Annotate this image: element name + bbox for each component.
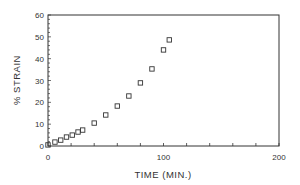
data-point-square [59,138,63,142]
y-tick-label: 20 [35,98,44,107]
y-axis-label: % STRAIN [11,55,22,105]
data-point-square [150,67,154,71]
y-tick-label: 40 [35,55,44,64]
data-point-square [70,133,74,137]
data-point-square [167,38,171,42]
data-point-square [92,121,96,125]
data-point-square [104,113,108,117]
x-tick-label: 0 [46,153,51,162]
y-tick-label: 50 [35,33,44,42]
axis-ticks [48,15,279,146]
strain-time-chart: 0100200 0102030405060 TIME (MIN.) % STRA… [0,0,300,185]
data-point-square [64,135,68,139]
data-point-square [138,81,142,85]
y-tick-labels: 0102030405060 [35,11,44,151]
x-tick-label: 100 [157,153,171,162]
x-tick-labels: 0100200 [46,153,286,162]
y-tick-label: 10 [35,120,44,129]
x-tick-label: 200 [272,153,286,162]
data-point-square [127,94,131,98]
y-tick-label: 30 [35,77,44,86]
x-axis-label: TIME (MIN.) [134,169,191,180]
plot-frame [48,15,279,146]
data-point-square [115,104,119,108]
plot-border [48,15,279,146]
data-point-square [53,140,57,144]
data-points [46,38,172,147]
data-point-square [161,48,165,52]
y-tick-label: 0 [40,142,45,151]
data-point-square [80,128,84,132]
y-tick-label: 60 [35,11,44,20]
data-point-square [76,130,80,134]
